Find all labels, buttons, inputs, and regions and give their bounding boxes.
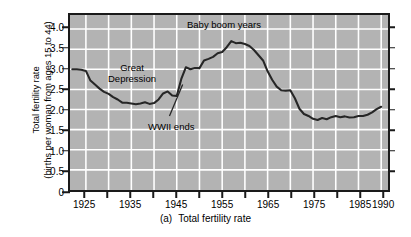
x-axis-tick-label: 1965 bbox=[257, 199, 279, 210]
annotation-great-depression-line1: Great bbox=[108, 62, 156, 73]
y-axis-tick-label: 1.0 bbox=[38, 145, 64, 156]
x-axis-tick-label: 1990 bbox=[372, 199, 394, 210]
x-axis-tick-mark bbox=[359, 191, 361, 198]
x-axis-tick-label: 1925 bbox=[73, 199, 95, 210]
plot-area: Baby boom years Great Depression WWII en… bbox=[68, 13, 390, 192]
y-axis-tick-label: 1.5 bbox=[38, 125, 64, 136]
x-axis-tick-mark bbox=[313, 191, 315, 198]
figure-caption: (a)Total fertility rate bbox=[0, 213, 411, 224]
x-axis-tick-mark bbox=[290, 191, 292, 198]
x-axis-tick-label: 1955 bbox=[211, 199, 233, 210]
y-axis-tick-label: 4.0 bbox=[38, 22, 64, 33]
x-axis-tick-label: 1945 bbox=[165, 199, 187, 210]
annotation-great-depression-line2: Depression bbox=[108, 73, 156, 84]
x-axis-tick-mark bbox=[83, 191, 85, 198]
x-axis-tick-mark bbox=[198, 191, 200, 198]
x-axis-tick-mark bbox=[382, 191, 384, 198]
x-axis-tick-mark bbox=[267, 191, 269, 198]
annotation-leader-lines bbox=[70, 15, 388, 190]
x-axis-tick-label: 1935 bbox=[119, 199, 141, 210]
x-axis-tick-mark bbox=[129, 191, 131, 198]
annotation-great-depression: Great Depression bbox=[108, 62, 156, 84]
y-axis-tick-label: 3.5 bbox=[38, 42, 64, 53]
y-axis-tick-label: 0 bbox=[38, 187, 64, 198]
x-axis-tick-marks bbox=[68, 191, 390, 199]
x-axis-tick-mark bbox=[244, 191, 246, 198]
annotation-wwii-ends: WWII ends bbox=[148, 121, 194, 132]
x-axis-tick-mark bbox=[106, 191, 108, 198]
x-axis-tick-mark bbox=[175, 191, 177, 198]
y-axis-tick-label: 2.0 bbox=[38, 104, 64, 115]
x-axis-tick-mark bbox=[336, 191, 338, 198]
x-axis-tick-mark bbox=[221, 191, 223, 198]
annotation-baby-boom: Baby boom years bbox=[187, 19, 261, 30]
x-axis-tick-mark bbox=[152, 191, 154, 198]
x-axis-tick-label: 1985 bbox=[349, 199, 371, 210]
figure-caption-number: (a) bbox=[160, 213, 172, 224]
y-axis-tick-label: 2.5 bbox=[38, 84, 64, 95]
y-axis-tick-labels: 4.03.53.02.52.01.51.00.50 bbox=[36, 0, 64, 237]
x-axis-tick-label: 1975 bbox=[303, 199, 325, 210]
y-axis-tick-label: 3.0 bbox=[38, 63, 64, 74]
y-axis-tick-label: 0.5 bbox=[38, 166, 64, 177]
figure-caption-text: Total fertility rate bbox=[178, 213, 251, 224]
figure-container: Total fertility rate (births per woman f… bbox=[0, 0, 411, 237]
